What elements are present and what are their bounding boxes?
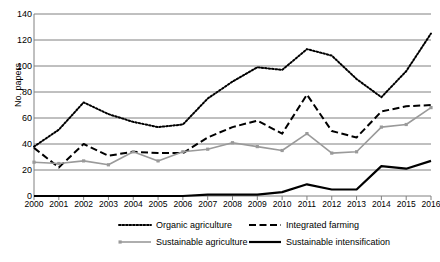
series-marker <box>206 148 209 151</box>
series-marker <box>32 161 35 164</box>
axis-lines <box>34 14 431 196</box>
x-tick-label: 2014 <box>372 199 391 209</box>
legend-swatch-icon <box>118 237 152 247</box>
x-tick-label: 2007 <box>198 199 217 209</box>
x-tick-label: 2010 <box>273 199 292 209</box>
x-tick-label: 2012 <box>322 199 341 209</box>
series-marker <box>181 150 184 153</box>
legend-item[interactable]: Sustainable intensification <box>248 237 390 247</box>
series-marker <box>330 152 333 155</box>
x-tick-label: 2011 <box>298 199 316 209</box>
legend-swatch-icon <box>118 220 152 230</box>
series-marker <box>355 150 358 153</box>
legend-swatch-icon <box>248 237 282 247</box>
legend-swatch-icon <box>248 220 282 230</box>
x-tick-label: 2004 <box>124 199 143 209</box>
series-line <box>34 95 431 168</box>
series-marker <box>107 163 110 166</box>
legend-item[interactable]: Organic agriculture <box>118 220 232 230</box>
x-tick-label: 2003 <box>99 199 118 209</box>
series-marker <box>429 106 432 109</box>
series-line <box>34 161 431 196</box>
series-line <box>34 34 431 147</box>
x-tick-label: 2002 <box>74 199 93 209</box>
legend-label: Sustainable agriculture <box>156 237 248 247</box>
legend-item[interactable]: Integrated farming <box>248 220 359 230</box>
x-tick-label: 2001 <box>49 199 68 209</box>
x-tick-label: 2005 <box>149 199 168 209</box>
x-tick-label: 2013 <box>347 199 366 209</box>
series-marker <box>156 159 159 162</box>
x-tick-label: 2006 <box>173 199 192 209</box>
series-marker <box>82 159 85 162</box>
x-tick-label: 2016 <box>422 199 440 209</box>
series-marker <box>132 150 135 153</box>
chart-legend: Organic agricultureIntegrated farmingSus… <box>0 218 439 262</box>
series-line <box>34 108 431 165</box>
legend-label: Sustainable intensification <box>286 237 390 247</box>
x-axis-tick-labels: 2000200120022003200420052006200720082009… <box>0 199 439 215</box>
series-marker <box>281 149 284 152</box>
gridlines <box>34 14 431 170</box>
legend-label: Organic agriculture <box>156 220 232 230</box>
series-marker <box>405 123 408 126</box>
series-marker <box>256 145 259 148</box>
series-marker <box>380 126 383 129</box>
series-marker <box>57 162 60 165</box>
series-marker <box>231 141 234 144</box>
data-series-layer <box>32 34 432 197</box>
x-tick-label: 2008 <box>223 199 242 209</box>
legend-item[interactable]: Sustainable agriculture <box>118 237 248 247</box>
x-tick-label: 2000 <box>25 199 44 209</box>
x-tick-label: 2009 <box>248 199 267 209</box>
series-marker <box>305 132 308 135</box>
x-tick-label: 2015 <box>397 199 416 209</box>
legend-label: Integrated farming <box>286 220 359 230</box>
